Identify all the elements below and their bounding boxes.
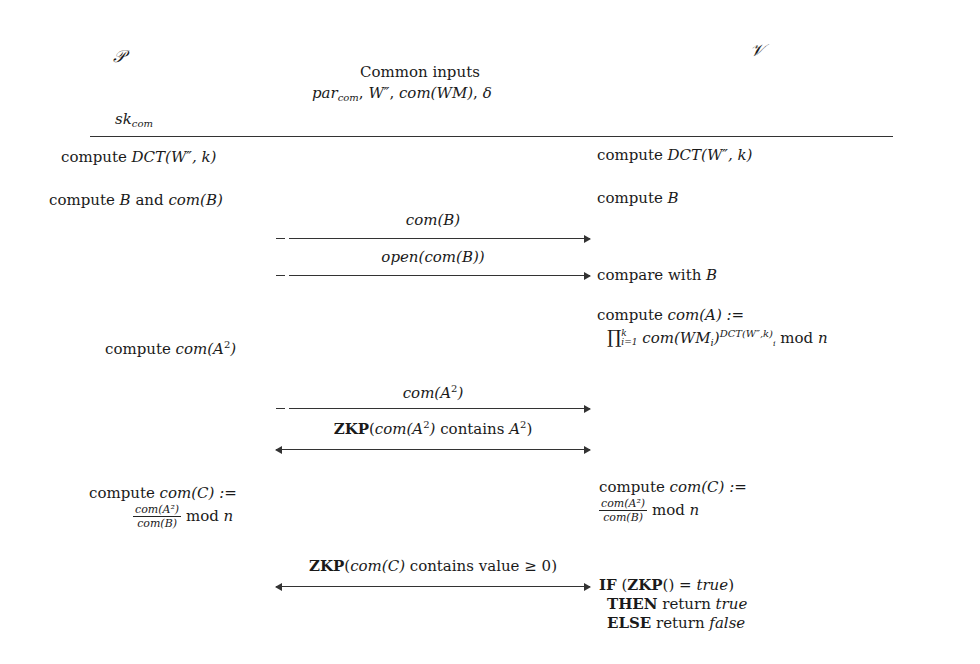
- arrow-bidirectional-1: [276, 445, 590, 455]
- product-symbol: ∏: [607, 326, 621, 347]
- if: IF: [599, 576, 617, 594]
- prover-compute-com-a2: compute com(A2): [105, 339, 236, 358]
- fraction: com(A²)com(B): [133, 503, 181, 530]
- verifier-label: 𝒱: [750, 40, 764, 60]
- message-com-a2: com(A2): [276, 383, 590, 402]
- arrow-right-3: [276, 404, 590, 414]
- prover-com-c-fraction: com(A²)com(B) mod n: [133, 503, 233, 530]
- a: A: [509, 420, 520, 438]
- expr: com(A: [403, 384, 451, 402]
- message-zkp-c: ZKP(com(C) contains value ≥ 0): [276, 557, 590, 575]
- header-divider: [90, 136, 893, 137]
- par-com: par: [312, 84, 338, 102]
- word: compute: [105, 340, 176, 358]
- zkp: ZKP: [309, 557, 344, 575]
- sk: sk: [115, 110, 132, 128]
- then: THEN: [607, 595, 657, 613]
- arrow-right-1: [276, 234, 590, 244]
- prover-compute-b: compute B and com(B): [49, 191, 223, 209]
- prover-label: 𝒫: [113, 46, 125, 66]
- n: n: [224, 507, 234, 525]
- verifier-com-c-fraction: com(A²)com(B) mod n: [599, 497, 699, 524]
- return: return: [657, 595, 715, 613]
- zkp: ZKP: [334, 420, 369, 438]
- n: n: [818, 329, 828, 347]
- denominator: com(B): [599, 511, 647, 524]
- verifier-compute-dct: compute DCT(W″, k): [597, 146, 752, 164]
- message-zkp-a2: ZKP(com(A2) contains A2): [276, 419, 590, 438]
- expr: com(A) :=: [668, 306, 745, 324]
- contains: contains: [435, 420, 509, 438]
- w-double-prime: W″: [368, 84, 389, 102]
- verifier-compare-b: compare with B: [597, 266, 717, 284]
- prod-sub: i=1: [621, 338, 637, 347]
- word: compare with: [597, 266, 706, 284]
- false: false: [709, 614, 745, 632]
- b: B: [706, 266, 717, 284]
- com-wm: com(WM): [399, 84, 473, 102]
- open: (: [617, 576, 628, 594]
- common-inputs-title: Common inputs: [360, 63, 480, 81]
- mid: () =: [663, 576, 697, 594]
- zkp: ZKP: [627, 576, 662, 594]
- n: n: [690, 501, 700, 519]
- if-line: IF (ZKP() = true): [599, 576, 747, 595]
- word: compute: [597, 189, 668, 207]
- true: true: [696, 576, 728, 594]
- message-open-com-b: open(com(B)): [276, 248, 590, 266]
- verifier-compute-com-a: compute com(A) :=: [597, 306, 744, 324]
- expr: com(A: [176, 340, 224, 358]
- exponent: DCT(W″,k): [720, 328, 773, 339]
- prover-compute-com-c: compute com(C) :=: [89, 484, 237, 502]
- word: compute: [597, 306, 668, 324]
- mod: mod: [776, 329, 818, 347]
- verifier-result: IF (ZKP() = true) THEN return true ELSE …: [599, 576, 747, 633]
- b: B: [668, 189, 679, 207]
- else: ELSE: [607, 614, 651, 632]
- else-line: ELSE return false: [599, 614, 747, 633]
- word: compute: [61, 148, 132, 166]
- expr: com(C) :=: [670, 478, 747, 496]
- verifier-compute-com-c: compute com(C) :=: [599, 478, 747, 496]
- expr: com(C): [350, 557, 405, 575]
- delta: δ: [483, 84, 492, 102]
- numerator: com(A²): [599, 497, 647, 511]
- fraction: com(A²)com(B): [599, 497, 647, 524]
- then-line: THEN return true: [599, 595, 747, 614]
- expr: DCT(W″, k): [132, 148, 217, 166]
- mod: mod: [181, 507, 223, 525]
- return: return: [651, 614, 709, 632]
- true: true: [716, 595, 748, 613]
- and: and: [131, 191, 169, 209]
- common-inputs-list: parcom, W″, com(WM), δ: [312, 84, 492, 103]
- expr: com(A: [375, 420, 423, 438]
- prover-secret-key: skcom: [115, 110, 153, 129]
- rest: contains value ≥ 0): [405, 557, 557, 575]
- com-b: com(B): [168, 191, 222, 209]
- expr: com(C) :=: [160, 484, 237, 502]
- end: ): [526, 420, 532, 438]
- b: B: [120, 191, 131, 209]
- word: compute: [89, 484, 160, 502]
- close: ): [728, 576, 734, 594]
- arrow-bidirectional-2: [276, 582, 590, 592]
- par-sub: com: [338, 92, 359, 103]
- denominator: com(B): [133, 517, 181, 530]
- word: compute: [597, 146, 668, 164]
- term: com(WM: [642, 329, 710, 347]
- message-com-b: com(B): [276, 211, 590, 229]
- expr: DCT(W″, k): [668, 146, 753, 164]
- numerator: com(A²): [133, 503, 181, 517]
- arrow-right-2: [276, 271, 590, 281]
- prover-compute-dct: compute DCT(W″, k): [61, 148, 216, 166]
- mod: mod: [647, 501, 689, 519]
- word: compute: [599, 478, 670, 496]
- close: ): [230, 340, 236, 358]
- close: ): [457, 384, 463, 402]
- sk-sub: com: [132, 118, 153, 129]
- verifier-compute-b: compute B: [597, 189, 679, 207]
- word: compute: [49, 191, 120, 209]
- verifier-com-a-product: ∏ki=1 com(WMi)DCT(W″,k)i mod n: [607, 326, 828, 348]
